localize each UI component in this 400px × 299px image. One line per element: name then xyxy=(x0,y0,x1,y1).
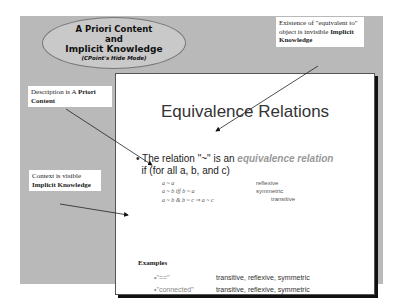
slide: Equivalence Relations • The relation "~"… xyxy=(115,73,375,295)
example-value: transitive, reflexive, symmetric xyxy=(216,286,310,293)
rule-formula: a ~ b iff b ~ a xyxy=(162,188,195,194)
example-row: •"connected" xyxy=(154,286,194,293)
header-line3: Implicit Knowledge xyxy=(43,44,185,55)
rule-formula: a ~ b & b ~ c ⇒ a ~ c xyxy=(162,196,214,203)
rule-name: transitive xyxy=(271,196,295,202)
header-line2: and xyxy=(43,34,185,44)
equivalence-term: equivalence relation xyxy=(237,153,333,164)
example-value: transitive, reflexive, symmetric xyxy=(216,274,310,281)
rule-name: reflexive xyxy=(256,180,278,186)
header-line1: A Priori Content xyxy=(43,24,185,34)
examples-heading: Examples xyxy=(138,259,167,267)
example-row: •"==" xyxy=(154,274,170,281)
header-ellipse: A Priori Content and Implicit Knowledge … xyxy=(42,17,186,69)
definition-bullet: • The relation "~" is an equivalence rel… xyxy=(136,153,333,177)
rule-formula: a ~ a xyxy=(162,180,174,186)
callout-implicit-top: Existence of "equivalent to" object is i… xyxy=(276,17,364,47)
slide-title: Equivalence Relations xyxy=(116,102,374,122)
rule-name: symmetric xyxy=(256,188,283,194)
header-line4: (CPoint's Hide Mode) xyxy=(43,55,185,62)
callout-implicit-left: Context is visible Implicit Knowledge xyxy=(29,170,101,191)
callout-apriori: Description is A Priori Content xyxy=(28,86,112,107)
